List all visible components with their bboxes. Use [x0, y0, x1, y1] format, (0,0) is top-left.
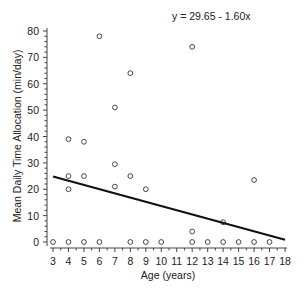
data-point	[252, 178, 257, 183]
data-point	[128, 174, 133, 179]
data-point	[128, 71, 133, 76]
data-point	[159, 240, 164, 245]
x-tick-label: 13	[202, 255, 214, 267]
y-tick-label: 60	[27, 78, 39, 90]
x-tick-label: 9	[143, 255, 149, 267]
x-tick-label: 3	[50, 255, 56, 267]
y-tick-label: 80	[27, 25, 39, 37]
data-point	[112, 105, 117, 110]
data-point	[66, 174, 71, 179]
y-tick-label: 10	[27, 210, 39, 222]
data-point	[97, 240, 102, 245]
x-tick-label: 5	[81, 255, 87, 267]
data-point	[51, 240, 56, 245]
y-tick-label: 70	[27, 51, 39, 63]
data-point	[112, 162, 117, 167]
x-tick-label: 4	[66, 255, 72, 267]
data-point	[236, 240, 241, 245]
y-axis-label: Mean Daily Time Allocation (min/day)	[11, 50, 23, 223]
data-point	[97, 34, 102, 39]
x-tick-label: 10	[155, 255, 167, 267]
data-point	[190, 44, 195, 49]
x-tick-label: 11	[171, 255, 182, 267]
data-point	[221, 240, 226, 245]
data-point	[190, 240, 195, 245]
scatter-chart: 3456789101112131415161718010203040506070…	[0, 0, 306, 295]
x-tick-label: 12	[186, 255, 198, 267]
x-tick-label: 16	[248, 255, 260, 267]
regression-line	[53, 176, 285, 239]
data-point	[82, 240, 87, 245]
data-point	[66, 187, 71, 192]
data-point	[112, 184, 117, 189]
y-tick-label: 0	[33, 236, 39, 248]
data-point	[205, 240, 210, 245]
x-tick-label: 7	[112, 255, 118, 267]
x-tick-label: 15	[233, 255, 245, 267]
data-point	[82, 174, 87, 179]
x-tick-label: 18	[279, 255, 291, 267]
data-point	[143, 187, 148, 192]
y-tick-label: 30	[27, 157, 39, 169]
data-point	[66, 137, 71, 142]
y-tick-label: 40	[27, 131, 39, 143]
x-tick-label: 17	[264, 255, 276, 267]
data-point	[267, 240, 272, 245]
data-point	[143, 240, 148, 245]
x-tick-label: 8	[127, 255, 133, 267]
data-points	[51, 34, 272, 245]
x-tick-label: 14	[217, 255, 229, 267]
data-point	[252, 240, 257, 245]
data-point	[128, 240, 133, 245]
data-point	[190, 229, 195, 234]
data-point	[82, 139, 87, 144]
x-tick-label: 6	[96, 255, 102, 267]
data-point	[66, 240, 71, 245]
y-tick-label: 50	[27, 104, 39, 116]
y-tick-label: 20	[27, 183, 39, 195]
regression-equation: y = 29.65 - 1.60x	[172, 10, 251, 22]
x-axis-label: Age (years)	[141, 269, 195, 281]
